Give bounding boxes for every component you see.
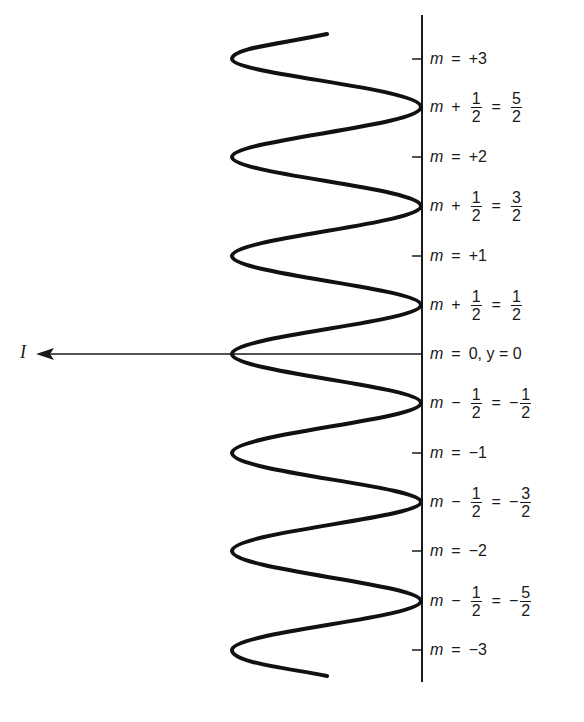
fraction: 12 [520, 386, 531, 421]
label-half-3-2: m + 12 = 32 [430, 186, 524, 226]
label-half-minus-5-2: m − 12 = − 52 [430, 581, 533, 621]
label-m-plus-1: m = +1 [430, 236, 487, 276]
label-half-minus-3-2: m − 12 = − 32 [430, 482, 533, 522]
label-half-minus-1-2: m − 12 = − 12 [430, 383, 533, 423]
intensity-wave [232, 34, 421, 676]
fraction: 12 [471, 288, 482, 323]
fraction: 52 [520, 584, 531, 619]
intensity-label: I [20, 342, 26, 363]
label-m-zero: m = 0, y = 0 [430, 334, 522, 374]
label-m-minus-3: m = −3 [430, 630, 487, 670]
fraction: 32 [520, 485, 531, 520]
label-half-5-2: m + 12 = 52 [430, 87, 524, 127]
fraction: 52 [511, 90, 522, 125]
fraction: 32 [511, 189, 522, 224]
label-m-minus-2: m = −2 [430, 531, 487, 571]
fraction: 12 [511, 288, 522, 323]
fraction: 12 [471, 485, 482, 520]
fraction: 12 [471, 90, 482, 125]
label-m-minus-1: m = −1 [430, 433, 487, 473]
fraction: 12 [471, 386, 482, 421]
label-half-1-2: m + 12 = 12 [430, 285, 524, 325]
label-m-plus-3: m = +3 [430, 39, 487, 79]
label-m-plus-2: m = +2 [430, 137, 487, 177]
fraction: 12 [471, 584, 482, 619]
fraction: 12 [471, 189, 482, 224]
